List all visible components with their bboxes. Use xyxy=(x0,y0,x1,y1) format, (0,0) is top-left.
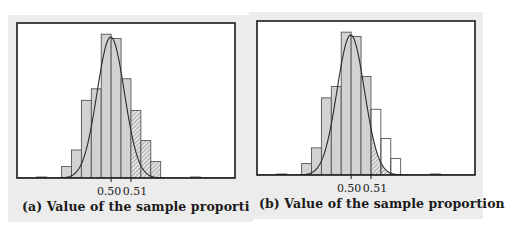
histogram-bar-5 xyxy=(101,34,111,178)
panel-a: 0.500.51 (a) Value of the sample proport… xyxy=(8,15,253,222)
histogram-bar-3 xyxy=(321,98,331,175)
histogram-bar-2 xyxy=(72,150,82,178)
histogram-a: 0.500.51 xyxy=(8,15,253,222)
x-tick-label-1: 0.51 xyxy=(363,182,388,195)
histogram-bar-2 xyxy=(312,148,322,175)
histogram-b: 0.500.51 xyxy=(249,12,483,219)
x-tick-label-1: 0.51 xyxy=(123,185,148,198)
panel-b: 0.500.51 (b) Value of the sample proport… xyxy=(249,12,483,219)
histogram-bar-5 xyxy=(341,32,351,175)
histogram-bar-7 xyxy=(361,76,371,175)
caption-a: (a) Value of the sample proportion xyxy=(22,199,267,214)
histogram-bar-4 xyxy=(331,86,341,175)
histogram-bar-10 xyxy=(151,161,161,178)
histogram-bar-7 xyxy=(121,79,131,178)
histogram-bar-8 xyxy=(131,110,141,178)
histogram-bar-6 xyxy=(351,36,361,175)
histogram-bar-6 xyxy=(111,39,121,178)
caption-b: (b) Value of the sample proportion xyxy=(259,196,505,211)
x-tick-label-0: 0.50 xyxy=(337,182,362,195)
histogram-bar-4 xyxy=(91,89,101,178)
histogram-bar-3 xyxy=(81,100,91,178)
x-tick-label-0: 0.50 xyxy=(97,185,122,198)
